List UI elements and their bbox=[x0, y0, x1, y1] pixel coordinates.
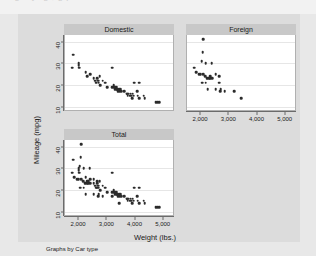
gridline bbox=[187, 85, 295, 86]
x-tick-mark bbox=[200, 112, 201, 115]
data-point bbox=[84, 71, 87, 74]
data-point bbox=[133, 200, 136, 203]
data-point bbox=[78, 171, 81, 174]
data-point bbox=[214, 88, 217, 91]
data-point bbox=[138, 81, 141, 84]
x-tick-label: 5,000 bbox=[277, 116, 292, 122]
data-point bbox=[136, 90, 139, 93]
x-tick-mark bbox=[106, 217, 107, 220]
y-tick-label: 10 bbox=[55, 212, 61, 219]
gridline bbox=[65, 168, 173, 169]
x-tick-label: 5,000 bbox=[155, 221, 170, 227]
x-tick-label: 2,000 bbox=[193, 116, 208, 122]
gridline bbox=[65, 147, 173, 148]
panel-title-total: Total bbox=[64, 129, 174, 140]
x-axis-title: Weight (lbs.) bbox=[134, 233, 176, 242]
data-point bbox=[210, 62, 213, 65]
graph-note: Graphs by Car type bbox=[46, 246, 98, 252]
data-point bbox=[133, 81, 136, 84]
gridline bbox=[65, 212, 173, 213]
data-point bbox=[89, 182, 92, 185]
data-point bbox=[136, 195, 139, 198]
data-point bbox=[82, 167, 85, 170]
data-point bbox=[240, 97, 243, 100]
y-axis-line bbox=[63, 140, 64, 216]
data-point bbox=[85, 193, 88, 196]
data-point bbox=[84, 176, 87, 179]
plot-area-domestic bbox=[64, 35, 174, 111]
data-point bbox=[207, 88, 210, 91]
top-cutoff-text: o g + y- g , g p bbox=[6, 0, 72, 1]
data-point bbox=[98, 180, 101, 183]
data-point bbox=[118, 202, 121, 205]
panel-foreign: Foreign2,0003,0004,0005,000 bbox=[186, 24, 296, 111]
gridline bbox=[65, 190, 173, 191]
data-point bbox=[218, 81, 221, 84]
y-tick-label: 10 bbox=[55, 107, 61, 114]
data-point bbox=[214, 73, 217, 76]
x-axis-line bbox=[64, 216, 174, 217]
data-point bbox=[218, 75, 221, 78]
y-axis-title: Mileage (mpg) bbox=[32, 116, 41, 164]
x-tick-mark bbox=[284, 112, 285, 115]
data-point bbox=[111, 171, 114, 174]
data-point bbox=[78, 66, 81, 69]
data-point bbox=[98, 75, 101, 78]
gridline bbox=[65, 63, 173, 64]
data-point bbox=[92, 178, 95, 181]
data-point bbox=[233, 90, 236, 93]
data-point bbox=[158, 101, 161, 104]
data-point bbox=[72, 53, 75, 56]
data-point bbox=[106, 191, 109, 194]
gridline bbox=[65, 107, 173, 108]
y-axis-line bbox=[63, 35, 64, 111]
data-point bbox=[92, 193, 95, 196]
data-point bbox=[211, 77, 214, 80]
data-point bbox=[78, 62, 81, 65]
data-point bbox=[201, 51, 204, 54]
data-point bbox=[86, 75, 89, 78]
plot-area-foreign bbox=[186, 35, 296, 111]
data-point bbox=[89, 178, 92, 181]
top-cutoff-text-strip: o g + y- g , g p bbox=[0, 0, 316, 14]
x-tick-label: 3,000 bbox=[221, 116, 236, 122]
data-point bbox=[158, 206, 161, 209]
y-tick-label: 40 bbox=[55, 42, 61, 49]
data-point bbox=[193, 66, 196, 69]
data-point bbox=[104, 186, 107, 189]
y-tick-label: 40 bbox=[55, 147, 61, 154]
data-point bbox=[97, 193, 100, 196]
x-tick-mark bbox=[134, 217, 135, 220]
data-point bbox=[71, 66, 74, 69]
x-axis-line bbox=[186, 111, 296, 112]
data-point bbox=[79, 186, 82, 189]
x-tick-label: 2,000 bbox=[71, 221, 86, 227]
data-point bbox=[72, 158, 75, 161]
y-tick-label: 20 bbox=[55, 85, 61, 92]
data-point bbox=[202, 38, 205, 41]
data-point bbox=[99, 84, 102, 87]
gridline bbox=[187, 107, 295, 108]
data-point bbox=[71, 171, 74, 174]
data-point bbox=[144, 202, 147, 205]
data-point bbox=[79, 156, 82, 159]
x-tick-mark bbox=[228, 112, 229, 115]
gridline bbox=[187, 63, 295, 64]
data-point bbox=[200, 60, 203, 63]
panel-total: Total102030402,0003,0004,0005,000 bbox=[64, 129, 174, 216]
panel-title-domestic: Domestic bbox=[64, 24, 174, 35]
y-tick-label: 30 bbox=[55, 63, 61, 70]
gridline bbox=[187, 42, 295, 43]
x-tick-mark bbox=[256, 112, 257, 115]
data-point bbox=[201, 81, 204, 84]
data-point bbox=[133, 95, 136, 98]
stata-graph-canvas: Mileage (mpg) Domestic10203040Foreign2,0… bbox=[18, 14, 300, 242]
data-point bbox=[101, 195, 104, 198]
x-tick-mark bbox=[162, 217, 163, 220]
data-point bbox=[138, 97, 141, 100]
data-point bbox=[104, 81, 107, 84]
x-tick-label: 4,000 bbox=[127, 221, 142, 227]
data-point bbox=[204, 81, 207, 84]
data-point bbox=[78, 167, 81, 170]
data-point bbox=[204, 62, 207, 65]
